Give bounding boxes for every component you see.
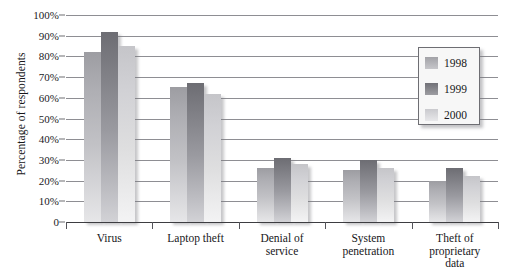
legend-swatch <box>425 57 438 69</box>
bar <box>343 170 360 222</box>
bar <box>274 158 291 222</box>
bar-body <box>84 52 101 222</box>
bar-group <box>84 15 135 222</box>
legend-label: 2000 <box>444 109 467 121</box>
y-tick-label: 10% <box>39 195 59 207</box>
bar <box>446 168 463 222</box>
x-axis-label: Virus <box>66 232 152 245</box>
y-tick-mark <box>59 77 65 78</box>
bar-group <box>343 15 394 222</box>
legend-item: 2000 <box>425 108 467 122</box>
bar-body <box>429 181 446 222</box>
bar <box>84 52 101 222</box>
y-tick-mark <box>59 15 65 16</box>
bar-body <box>118 46 135 222</box>
bar <box>187 83 204 222</box>
bar-body <box>463 176 480 222</box>
bar <box>257 168 274 222</box>
legend: 199819992000 <box>418 47 480 125</box>
bar <box>118 46 135 222</box>
bar <box>291 164 308 222</box>
bar <box>360 160 377 222</box>
y-tick-mark <box>59 118 65 119</box>
y-tick-label: 60% <box>39 92 59 104</box>
bar-body <box>343 170 360 222</box>
y-tick-label: 30% <box>39 154 59 166</box>
x-tick-mark <box>66 222 67 229</box>
y-tick-label: 90% <box>39 30 59 42</box>
bar-body <box>170 87 187 222</box>
legend-swatch <box>425 83 438 95</box>
y-tick-label: 50% <box>39 113 59 125</box>
bar-body <box>187 83 204 222</box>
bar-body <box>274 158 291 222</box>
y-tick-mark <box>59 180 65 181</box>
legend-label: 1999 <box>444 83 467 95</box>
y-tick-mark <box>59 201 65 202</box>
legend-swatch <box>425 109 438 121</box>
legend-item: 1999 <box>425 82 467 96</box>
x-tick-mark <box>152 222 153 229</box>
x-axis-label: Systempenetration <box>325 232 411 257</box>
bar-body <box>204 94 221 222</box>
y-tick-mark <box>59 35 65 36</box>
bar <box>377 168 394 222</box>
y-tick-mark <box>59 222 65 223</box>
y-tick-label: 20% <box>39 175 59 187</box>
bar-body <box>360 160 377 222</box>
bar-group <box>170 15 221 222</box>
y-tick-mark <box>59 139 65 140</box>
y-tick-label: 70% <box>39 71 59 83</box>
bar <box>204 94 221 222</box>
y-axis-title: Percentage of respondents <box>15 21 27 207</box>
bar-body <box>101 32 118 222</box>
x-tick-mark <box>239 222 240 229</box>
bar-body <box>377 168 394 222</box>
y-tick-label: 0 <box>54 216 60 228</box>
bar <box>170 87 187 222</box>
x-axis-label: Laptop theft <box>152 232 238 245</box>
x-axis-label: Denial ofservice <box>239 232 325 257</box>
legend-label: 1998 <box>444 57 467 69</box>
bar-body <box>257 168 274 222</box>
bar-group <box>257 15 308 222</box>
bar-body <box>291 164 308 222</box>
y-tick-label: 100% <box>33 9 59 21</box>
y-tick-mark <box>59 159 65 160</box>
y-tick-mark <box>59 97 65 98</box>
legend-item: 1998 <box>425 56 467 70</box>
x-tick-mark <box>325 222 326 229</box>
bar-body <box>446 168 463 222</box>
y-tick-label: 40% <box>39 133 59 145</box>
bar <box>429 181 446 222</box>
x-axis-label: Theft ofproprietarydata <box>412 232 498 270</box>
y-tick-mark <box>59 56 65 57</box>
bar <box>101 32 118 222</box>
bar-chart: Percentage of respondents 100%90%80%70%6… <box>0 0 511 271</box>
x-tick-mark <box>412 222 413 229</box>
y-tick-label: 80% <box>39 50 59 62</box>
x-tick-mark <box>498 222 499 229</box>
x-axis-line <box>66 222 498 223</box>
bar <box>463 176 480 222</box>
